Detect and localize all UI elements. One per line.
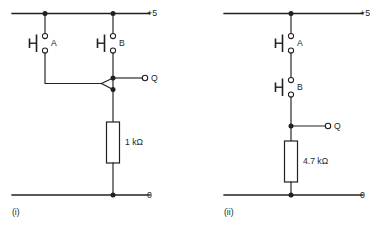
caption-i: (i) [12, 207, 20, 217]
switch-b-contact-bottom-ii [288, 92, 293, 97]
supply-rail-i: +5 [12, 8, 157, 18]
resistor-body-i [107, 122, 120, 163]
output-q-terminal-i[interactable] [142, 75, 147, 80]
switch-b-contact-bottom-i [110, 48, 115, 53]
switch-a-branch-ii: A [276, 14, 304, 54]
switch-a-contact-bottom-ii [288, 48, 293, 53]
switch-a-i[interactable]: A [30, 33, 58, 53]
switch-b-contact-top-ii [288, 77, 293, 82]
junction-dot-ground-i [111, 193, 116, 198]
switch-a-ii[interactable]: A [276, 33, 304, 53]
resistor-i: 1 kΩ [107, 90, 144, 196]
switch-b-i[interactable]: B [98, 33, 126, 53]
circuit-i: +5 A [12, 8, 158, 217]
ground-rail-ii: 0 [224, 190, 365, 200]
switch-a-contact-bottom-i [42, 48, 47, 53]
circuit-ii: +5 A [224, 8, 370, 217]
switch-b-contact-top-i [110, 33, 115, 38]
caption-ii: (ii) [224, 207, 234, 217]
switch-b-branch-i: B [98, 14, 126, 79]
output-q-i: Q [113, 73, 158, 83]
ground-label-i: 0 [147, 190, 152, 200]
switch-a-contact-top-ii [288, 33, 293, 38]
supply-rail-ii: +5 [224, 8, 370, 18]
resistor-ii: 4.7 kΩ [285, 126, 329, 195]
ground-rail-i: 0 [12, 190, 152, 200]
junction-dot-ground-ii [289, 193, 294, 198]
ground-label-ii: 0 [360, 190, 365, 200]
circuit-diagram-page: +5 A [0, 0, 381, 229]
output-q-terminal-ii[interactable] [325, 123, 330, 128]
switch-b-label-i: B [119, 38, 125, 48]
switch-a-branch-i: A [30, 14, 102, 84]
resistor-body-ii [285, 141, 298, 182]
switch-b-ii[interactable]: B [276, 77, 304, 97]
resistor-value-ii: 4.7 kΩ [303, 156, 329, 166]
switch-a-label-ii: A [297, 38, 303, 48]
switch-a-label-i: A [51, 38, 57, 48]
supply-label-i: +5 [147, 8, 157, 18]
switch-a-output-wire-i [45, 53, 102, 83]
resistor-value-i: 1 kΩ [125, 137, 143, 147]
output-q-ii: Q [289, 121, 342, 131]
output-q-label-ii: Q [334, 121, 341, 131]
switch-b-label-ii: B [297, 82, 303, 92]
output-q-label-i: Q [151, 73, 158, 83]
switch-a-contact-top-i [42, 33, 47, 38]
switch-b-branch-ii: B [276, 77, 304, 126]
supply-label-ii: +5 [360, 8, 370, 18]
